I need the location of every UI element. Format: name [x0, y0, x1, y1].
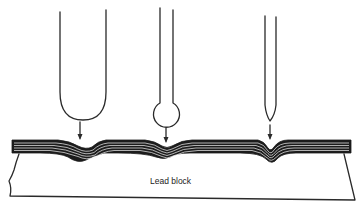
layered-sheet: [12, 140, 351, 162]
arrow-down-icon: [164, 128, 169, 143]
large-round-indenter: [60, 10, 106, 120]
arrow-down-icon: [268, 125, 273, 140]
arrow-down-icon: [78, 122, 83, 140]
ball-tip-indenter: [154, 8, 180, 127]
lead-block-label: Lead block: [150, 176, 191, 186]
indentation-diagram: Lead block: [0, 0, 363, 211]
sharp-tip-indenter: [265, 16, 276, 121]
